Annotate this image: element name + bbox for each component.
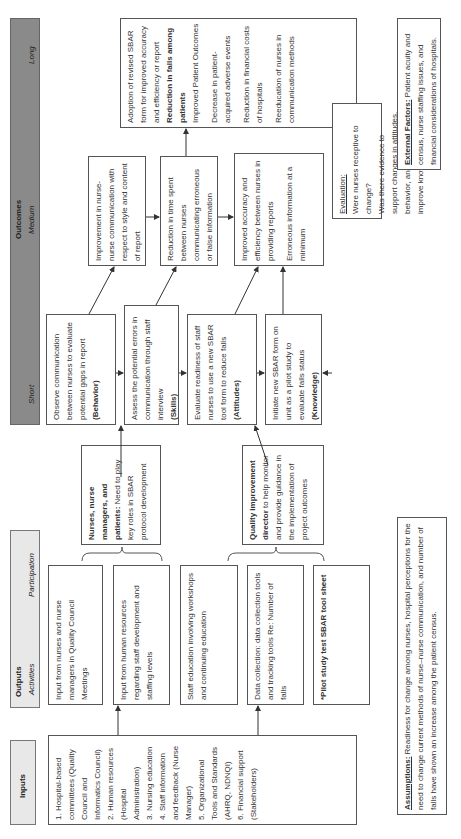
- logic-model-diagram: Inputs Outputs Activities Participation …: [0, 0, 461, 839]
- connector-arrows: [0, 0, 461, 839]
